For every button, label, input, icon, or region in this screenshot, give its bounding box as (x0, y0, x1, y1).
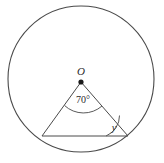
central-angle-label: 70° (76, 94, 90, 105)
main-circle (8, 6, 154, 152)
central-angle-arc (65, 106, 103, 113)
center-point-dot (78, 79, 83, 84)
geometry-figure: O 70° y (0, 0, 164, 163)
base-angle-label: y (111, 122, 117, 133)
circle-diagram-canvas: O 70° y (0, 0, 164, 163)
radius-left-line (42, 82, 81, 136)
radius-right-line (81, 82, 128, 136)
center-point-label: O (77, 65, 85, 77)
